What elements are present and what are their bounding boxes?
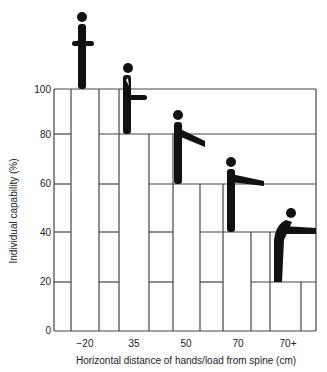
y-axis-label: Individual capability (%) [8, 158, 19, 263]
figure-reach-70-icon [226, 157, 264, 232]
x-tick-35: 35 [128, 338, 140, 349]
x-axis: −20 35 50 70 70+ Horizontal distance of … [76, 338, 297, 366]
y-tick-100: 100 [34, 84, 51, 95]
y-tick-0: 0 [45, 325, 51, 336]
figure-reach-50-icon [173, 110, 205, 184]
y-axis: 0 20 40 60 80 100 Individual capability … [8, 84, 51, 336]
x-tick-minus20: −20 [77, 338, 94, 349]
x-tick-70: 70 [232, 338, 244, 349]
y-tick-20: 20 [40, 276, 52, 287]
y-tick-80: 80 [40, 129, 52, 140]
x-tick-50: 50 [180, 338, 192, 349]
x-axis-label: Horizontal distance of hands/load from s… [76, 355, 296, 366]
figure-upright-icon [72, 12, 94, 89]
y-tick-60: 60 [40, 178, 52, 189]
capability-diagram: 0 20 40 60 80 100 Individual capability … [0, 0, 327, 372]
y-tick-40: 40 [40, 227, 52, 238]
x-tick-70plus: 70+ [280, 338, 297, 349]
step-grid [54, 89, 316, 331]
figure-reach-35-icon [123, 63, 147, 134]
figure-reach-70plus-icon [274, 208, 316, 282]
